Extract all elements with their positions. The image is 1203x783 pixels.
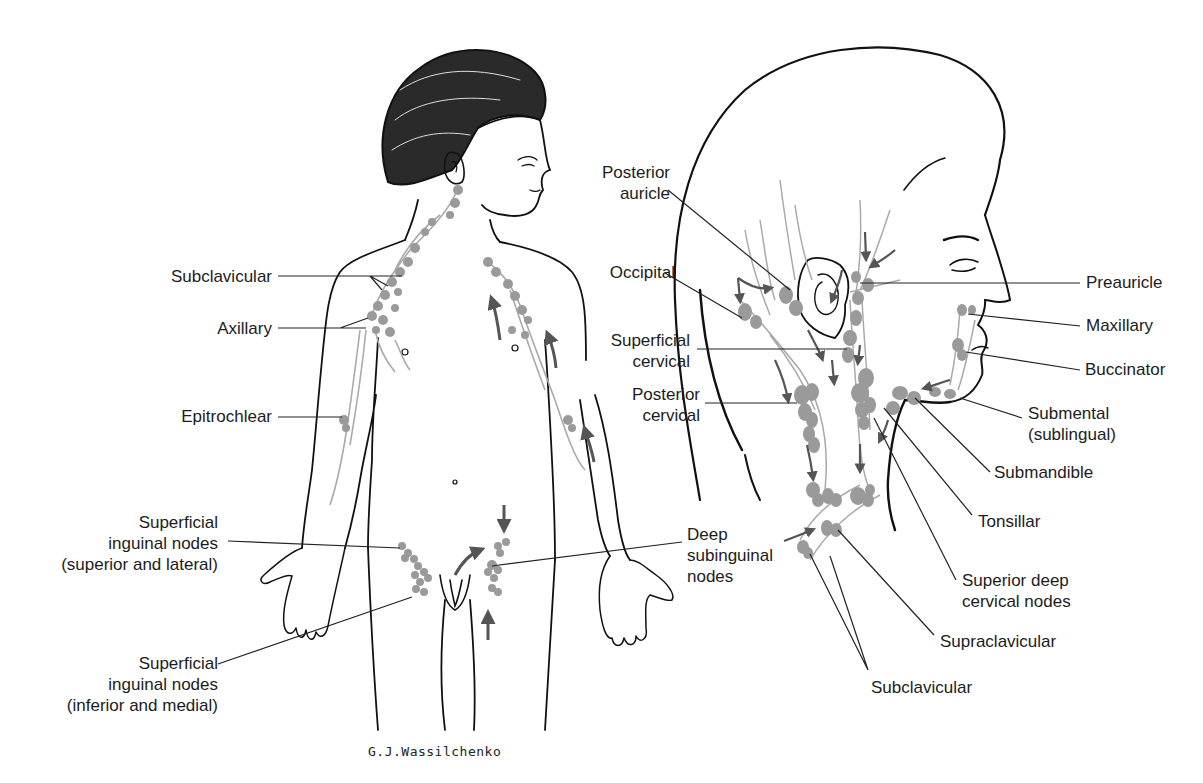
label-superficial-inguinal-superior-lateral: Superficial inguinal nodes (superior and…	[20, 512, 218, 575]
label-superficial-cervical: Superficial cervical	[580, 330, 690, 372]
skull-outline	[675, 47, 1005, 500]
label-occipital: Occipital	[555, 262, 675, 283]
label-posterior-auricle: Posterior auricle	[560, 162, 670, 204]
label-superficial-inguinal-inferior-medial: Superficial inguinal nodes (inferior and…	[20, 653, 218, 716]
label-subclavicular-head: Subclavicular	[871, 677, 1001, 698]
label-maxillary: Maxillary	[1086, 315, 1196, 336]
label-axillary: Axillary	[150, 318, 272, 339]
label-supraclavicular: Supraclavicular	[940, 631, 1090, 652]
label-preauricle: Preauricle	[1086, 272, 1196, 293]
body-flow-arrows	[455, 300, 594, 640]
head-lymph-nodes	[738, 271, 976, 559]
right-hand	[599, 556, 673, 646]
label-epitrochlear: Epitrochlear	[130, 406, 272, 427]
label-superior-deep-cervical: Superior deep cervical nodes	[962, 570, 1102, 612]
artist-signature: G.J.Wassilchenko	[368, 744, 501, 759]
label-submental: Submental (sublingual)	[1028, 403, 1158, 445]
left-hand	[261, 548, 345, 639]
label-submandible: Submandible	[994, 462, 1124, 483]
label-buccinator: Buccinator	[1085, 359, 1195, 380]
head-profile-illustration	[675, 47, 1010, 530]
label-subclavicular: Subclavicular	[150, 266, 272, 287]
label-posterior-cervical: Posterior cervical	[590, 384, 700, 426]
label-deep-subinguinal: Deep subinguinal nodes	[687, 524, 797, 587]
body-lymph-vessels	[330, 188, 585, 505]
hair	[383, 50, 546, 185]
label-tonsillar: Tonsillar	[978, 511, 1088, 532]
ear-side	[798, 258, 848, 338]
face	[478, 116, 550, 216]
